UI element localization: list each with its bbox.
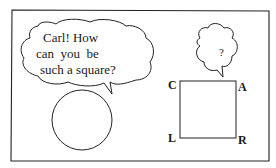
label-c: C [168, 78, 177, 92]
cartoon-panel: Carl! How can you be such a square? ? C … [0, 0, 276, 168]
label-a: A [238, 80, 247, 94]
thought-bubble [197, 24, 238, 78]
thought-question-mark: ? [219, 46, 224, 58]
label-l: L [168, 131, 176, 145]
circle-character [52, 90, 112, 150]
speech-line-1: Carl! How [43, 30, 99, 45]
speech-line-2: can you be [36, 46, 99, 61]
speech-line-3: such a square? [40, 62, 116, 77]
label-r: R [238, 133, 247, 147]
square-character [180, 81, 236, 138]
